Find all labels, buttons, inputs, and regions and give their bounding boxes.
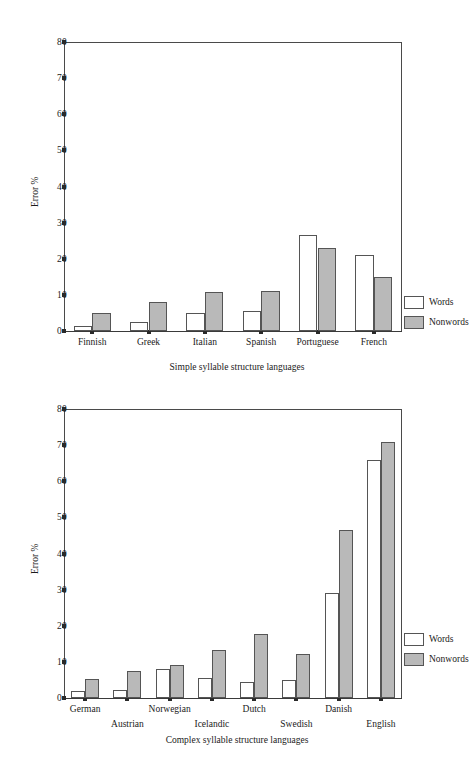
legend-label-words: Words [429,635,454,645]
y-axis-tick-mark [62,112,66,116]
x-axis-category-label: Swedish [280,719,312,729]
bar-nonwords-spanish [261,291,280,331]
legend-label-nonwords: Nonwords [429,318,469,328]
y-axis-tick-mark [62,329,66,333]
bar-nonwords-finnish [92,313,111,331]
x-axis-category-label: German [70,704,101,714]
x-axis-category-label: Austrian [111,719,144,729]
bar-nonwords-greek [149,302,168,331]
bar-nonwords-norwegian [170,665,184,698]
bar-nonwords-portuguese [318,248,337,331]
y-axis-tick-mark [62,221,66,225]
legend-label-words: Words [429,298,454,308]
bar-words-danish [325,593,339,698]
legend-swatch-nonwords [404,653,424,666]
y-axis-tick-mark [62,185,66,189]
y-axis-title: Error % [30,543,40,573]
bar-words-icelandic [198,678,212,698]
y-axis-tick-mark [62,257,66,261]
bar-words-swedish [282,680,296,698]
y-axis-title: Error % [30,176,40,206]
figure-caption: Simple syllable structure languages [0,362,474,372]
bar-words-german [71,691,85,698]
legend-swatch-words [404,296,424,309]
bar-nonwords-danish [339,530,353,698]
bar-words-italian [186,313,205,331]
bar-nonwords-italian [205,292,224,331]
y-axis-tick-mark [62,552,66,556]
bar-nonwords-german [85,679,99,698]
figure-caption: Complex syllable structure languages [0,735,474,745]
bar-words-spanish [243,311,262,331]
bar-nonwords-austrian [127,671,141,698]
bar-words-austrian [113,690,127,698]
bar-words-finnish [74,326,93,331]
y-axis-tick-mark [62,443,66,447]
x-axis-category-label: Danish [325,704,352,714]
bar-words-portuguese [299,235,318,331]
x-axis-category-label: Norwegian [149,704,191,714]
y-axis-tick-mark [62,588,66,592]
x-axis-category-label: Dutch [243,704,266,714]
bar-nonwords-swedish [296,654,310,698]
legend-item-nonwords: Nonwords [404,316,469,329]
legend-swatch-words [404,633,424,646]
legend-label-nonwords: Nonwords [429,655,469,665]
chart-simple-syllable: 01020304050607080Error %FinnishGreekItal… [0,0,474,381]
chart-complex-syllable: 01020304050607080Error %GermanAustrianNo… [0,381,474,762]
legend-item-words: Words [404,633,469,646]
y-axis-tick-mark [62,407,66,411]
legend-item-nonwords: Nonwords [404,653,469,666]
x-axis-line [64,698,402,699]
y-axis-tick-mark [62,479,66,483]
bar-nonwords-french [374,277,393,331]
x-axis-category-label: Greek [137,337,160,347]
y-axis-tick-mark [62,40,66,44]
x-axis-category-label: Portuguese [296,337,338,347]
figure-page: 01020304050607080Error %FinnishGreekItal… [0,0,474,762]
bar-nonwords-icelandic [212,650,226,698]
bar-nonwords-english [381,442,395,698]
bar-words-norwegian [156,669,170,698]
legend: WordsNonwords [404,633,469,673]
x-axis-category-label: Finnish [78,337,107,347]
x-axis-line [64,331,402,332]
y-axis-tick-mark [62,660,66,664]
legend-item-words: Words [404,296,469,309]
y-axis-tick-mark [62,76,66,80]
x-axis-category-label: Spanish [246,337,276,347]
plot-area [64,42,402,331]
legend: WordsNonwords [404,296,469,336]
y-axis-tick-mark [62,515,66,519]
y-axis-tick-mark [62,624,66,628]
x-axis-category-label: English [366,719,395,729]
x-axis-category-label: Italian [193,337,217,347]
bar-words-dutch [240,682,254,698]
y-axis-tick-mark [62,293,66,297]
bar-words-english [367,460,381,698]
bar-words-french [355,255,374,331]
bar-nonwords-dutch [254,634,268,698]
y-axis-tick-mark [62,148,66,152]
x-axis-category-label: French [361,337,387,347]
legend-swatch-nonwords [404,316,424,329]
y-axis-tick-mark [62,696,66,700]
bar-words-greek [130,322,149,331]
x-axis-category-label: Icelandic [194,719,229,729]
